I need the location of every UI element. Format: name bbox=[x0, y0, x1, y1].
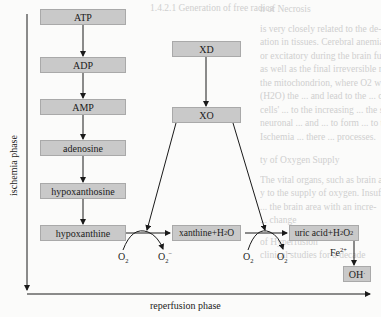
xanthine-h2o-box: xanthine+H2O bbox=[172, 225, 241, 241]
fe-text: Fe bbox=[330, 247, 340, 258]
ischemia-phase-label: ischemia phase bbox=[8, 131, 19, 201]
atp-label: ATP bbox=[74, 12, 92, 23]
oh-radical-box: OH· bbox=[343, 266, 371, 282]
adp-box: ADP bbox=[40, 57, 126, 73]
xd-box: XD bbox=[172, 41, 241, 57]
superoxide-label-1: O2− bbox=[158, 251, 172, 262]
uric-acid-label: uric acid+H bbox=[295, 228, 340, 238]
subscript: 2 bbox=[250, 257, 253, 264]
uric-acid-mid: O bbox=[343, 228, 350, 238]
subscript: 2 bbox=[284, 257, 287, 264]
xanthine-tail: O bbox=[227, 228, 234, 238]
amp-label: AMP bbox=[72, 102, 94, 113]
superoxide-label-2: O2− bbox=[277, 251, 291, 262]
xo-box: XO bbox=[172, 107, 241, 123]
adenosine-label: adenosine bbox=[63, 143, 103, 154]
amp-box: AMP bbox=[40, 99, 126, 115]
adp-label: ADP bbox=[73, 60, 93, 71]
hypoxanthosine-label: hypoxanthosine bbox=[51, 186, 114, 197]
uric-acid-h2o2-box: uric acid+H2O2 bbox=[289, 225, 359, 241]
subscript: 2 bbox=[125, 257, 128, 264]
superscript: − bbox=[168, 250, 172, 257]
adenosine-box: adenosine bbox=[40, 140, 126, 156]
reperfusion-phase-label: reperfusion phase bbox=[150, 300, 221, 311]
xanthine-label: xanthine+H bbox=[179, 228, 224, 238]
o2-label-2: O2 bbox=[243, 251, 253, 262]
xo-label: XO bbox=[199, 110, 213, 121]
fe2-label: Fe2+ bbox=[330, 247, 347, 258]
oh-label: OH bbox=[349, 269, 363, 280]
superscript: − bbox=[287, 250, 291, 257]
atp-box: ATP bbox=[40, 9, 126, 25]
superscript: 2+ bbox=[340, 246, 347, 253]
hypoxanthine-box: hypoxanthine bbox=[40, 225, 126, 241]
hypoxanthosine-box: hypoxanthosine bbox=[40, 183, 126, 199]
subscript: 2 bbox=[165, 257, 168, 264]
hypoxanthine-label: hypoxanthine bbox=[56, 228, 110, 239]
o2-label-1: O2 bbox=[118, 251, 128, 262]
xd-label: XD bbox=[199, 44, 213, 55]
